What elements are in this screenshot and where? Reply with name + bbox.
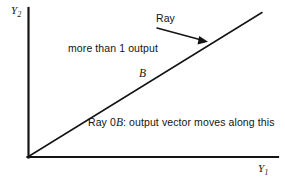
diagram-canvas bbox=[0, 0, 285, 181]
ray-annotation-label: Ray bbox=[156, 13, 175, 24]
caption-suffix: : output vector moves along this bbox=[123, 116, 274, 128]
region-note-label: more than 1 output bbox=[68, 43, 158, 54]
caption-italic-b: B bbox=[116, 116, 123, 128]
y-axis-label-subscript: 2 bbox=[17, 10, 21, 19]
ray-pointer-arrow bbox=[157, 28, 208, 45]
ray-diagram-figure: Y2 Y1 Ray more than 1 output B Ray 0B: o… bbox=[0, 0, 285, 181]
y-axis-label: Y2 bbox=[11, 5, 21, 18]
ray-line bbox=[29, 13, 263, 157]
point-b-label: B bbox=[139, 68, 146, 80]
ray-caption: Ray 0B: output vector moves along this bbox=[88, 117, 275, 129]
x-axis-label-subscript: 1 bbox=[264, 168, 268, 177]
caption-prefix: Ray 0 bbox=[88, 116, 116, 128]
x-axis-label: Y1 bbox=[258, 163, 268, 176]
